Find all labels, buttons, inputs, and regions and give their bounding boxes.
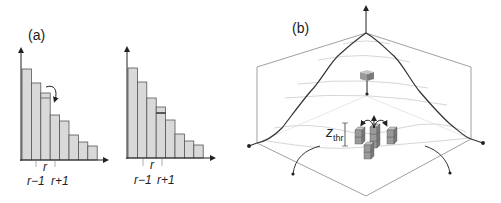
histogram-bar	[50, 115, 59, 160]
contour-3	[298, 81, 428, 88]
threshold-symbol: z	[326, 124, 333, 140]
histogram-after	[126, 49, 213, 166]
dropping-grain-icon	[360, 70, 374, 94]
label-r-minus-1-before: r−1	[27, 174, 45, 188]
histogram-bar	[166, 120, 175, 158]
bars-after	[128, 68, 203, 158]
panel-b-label: (b)	[292, 20, 309, 36]
grain-cube	[355, 127, 365, 137]
grain-cube	[364, 142, 374, 152]
label-r-after: r	[150, 158, 154, 172]
threshold-label: zthr	[326, 124, 344, 143]
histogram-before	[20, 50, 106, 167]
grain-stack	[355, 124, 397, 159]
histogram-bar	[147, 98, 156, 158]
contour-4	[285, 95, 447, 105]
outflow-arrow-right-icon	[425, 146, 450, 173]
histogram-bar	[60, 121, 69, 160]
back-frame-left	[257, 33, 366, 143]
surface-profile-right	[366, 33, 483, 143]
histogram-bar	[88, 146, 97, 160]
contour-1	[343, 41, 390, 44]
bars-before	[22, 69, 97, 160]
surface-profile-left	[249, 33, 366, 146]
label-r-minus-1-after: r−1	[134, 173, 152, 187]
panel-a-label: (a)	[28, 27, 45, 43]
histogram-bar	[194, 145, 203, 158]
figure-canvas	[0, 0, 501, 203]
histogram-bar	[156, 107, 165, 158]
threshold-subscript: thr	[333, 133, 344, 143]
outflow-arrow-left-icon	[293, 146, 320, 174]
label-r-plus-1-after: r+1	[157, 173, 175, 187]
histogram-bar	[31, 83, 40, 160]
label-r-plus-1-before: r+1	[51, 174, 69, 188]
histogram-bar	[78, 142, 87, 160]
histogram-bar	[137, 82, 146, 158]
sandpile-surface	[249, 8, 483, 196]
histogram-bar	[184, 141, 193, 158]
grain-cube	[387, 127, 397, 137]
histogram-bar	[69, 135, 78, 160]
histogram-bar	[22, 69, 31, 160]
histogram-bar	[175, 134, 184, 158]
label-r-before: r	[43, 160, 47, 174]
histogram-bar	[128, 68, 137, 158]
histogram-bar	[41, 93, 50, 160]
